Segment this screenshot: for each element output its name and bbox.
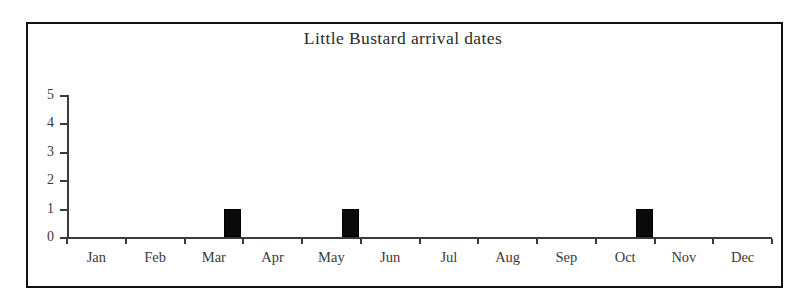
y-tick-label-4: 4 (30, 116, 54, 130)
plot-area: 012345 JanFebMarAprMayJunJulAugSepOctNov… (0, 0, 806, 304)
y-tick-label-wrap-0: 0 (28, 230, 54, 244)
y-tick-label-wrap-2: 2 (28, 173, 54, 187)
x-tick-label-jul: Jul (420, 250, 479, 266)
y-tick-label-2: 2 (30, 173, 54, 187)
x-tick-5 (360, 239, 362, 244)
x-tick-0 (66, 239, 68, 244)
bar-may (342, 209, 359, 237)
x-tick-label-feb: Feb (126, 250, 185, 266)
y-tick-1 (60, 209, 68, 211)
y-tick-5 (60, 95, 68, 97)
x-tick-10 (654, 239, 656, 244)
y-tick-2 (60, 180, 68, 182)
x-tick-4 (301, 239, 303, 244)
x-tick-label-oct: Oct (596, 250, 655, 266)
y-tick-3 (60, 152, 68, 154)
y-tick-label-wrap-3: 3 (28, 145, 54, 159)
x-tick-label-apr: Apr (243, 250, 302, 266)
x-tick-label-mar: Mar (185, 250, 244, 266)
x-tick-11 (712, 239, 714, 244)
y-tick-label-3: 3 (30, 145, 54, 159)
y-tick-label-wrap-1: 1 (28, 202, 54, 216)
y-tick-label-wrap-5: 5 (28, 88, 54, 102)
bar-mar (224, 209, 241, 237)
x-tick-12 (771, 239, 773, 244)
x-tick-8 (536, 239, 538, 244)
x-tick-label-jun: Jun (361, 250, 420, 266)
y-tick-label-wrap-4: 4 (28, 116, 54, 130)
x-tick-label-jan: Jan (67, 250, 126, 266)
bar-oct (636, 209, 653, 237)
x-tick-label-may: May (302, 250, 361, 266)
y-tick-label-1: 1 (30, 202, 54, 216)
x-tick-label-aug: Aug (478, 250, 537, 266)
y-tick-label-0: 0 (30, 230, 54, 244)
y-axis-line (67, 95, 69, 239)
y-tick-label-5: 5 (30, 88, 54, 102)
figure: Little Bustard arrival dates 012345 JanF… (0, 0, 806, 304)
x-tick-6 (419, 239, 421, 244)
x-tick-1 (125, 239, 127, 244)
x-tick-label-sep: Sep (537, 250, 596, 266)
x-tick-2 (184, 239, 186, 244)
x-tick-label-dec: Dec (713, 250, 772, 266)
x-tick-3 (242, 239, 244, 244)
x-tick-label-nov: Nov (655, 250, 714, 266)
y-tick-4 (60, 123, 68, 125)
x-tick-7 (477, 239, 479, 244)
x-tick-9 (595, 239, 597, 244)
